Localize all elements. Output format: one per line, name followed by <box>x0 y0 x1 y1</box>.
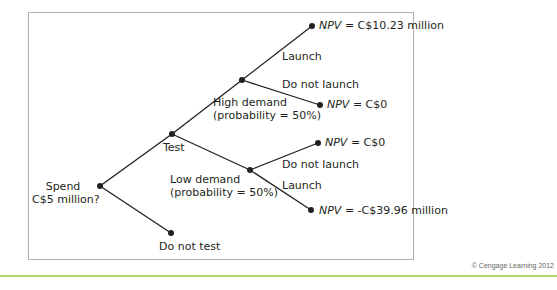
root-label-line2: C$5 million? <box>32 193 94 206</box>
copyright-credit: © Cengage Learning 2012 <box>472 262 554 269</box>
npv-label: NPV <box>327 98 349 111</box>
branch-label-do-not-test: Do not test <box>159 240 220 253</box>
npv-label: NPV <box>319 19 341 32</box>
root-label-line1: Spend <box>32 180 94 193</box>
outcome-high-launch: NPV = C$10.23 million <box>319 19 444 32</box>
node-do-not-test <box>168 230 174 236</box>
npv-value: = C$10.23 million <box>341 19 444 32</box>
node-root <box>97 183 103 189</box>
node-high-demand <box>239 77 245 83</box>
npv-label: NPV <box>319 204 341 217</box>
edge-test <box>100 134 172 186</box>
high-demand-line1: High demand <box>213 96 321 109</box>
decision-tree-edges <box>0 0 557 290</box>
footer-rule <box>0 275 557 277</box>
outcome-low-do-not-launch: NPV = C$0 <box>325 136 385 149</box>
node-low-do-not-launch-outcome <box>315 140 321 146</box>
low-demand-line2: (probability = 50%) <box>170 186 278 199</box>
branch-label-high-demand: High demand (probability = 50%) <box>213 96 321 122</box>
node-low-launch-outcome <box>308 207 314 213</box>
outcome-high-do-not-launch: NPV = C$0 <box>327 98 387 111</box>
outcome-low-launch: NPV = -C$39.96 million <box>319 204 448 217</box>
branch-label-high-do-not-launch: Do not launch <box>282 78 359 91</box>
high-demand-line2: (probability = 50%) <box>213 109 321 122</box>
node-test <box>169 131 175 137</box>
branch-label-low-demand: Low demand (probability = 50%) <box>170 173 278 199</box>
branch-label-low-do-not-launch: Do not launch <box>282 158 359 171</box>
node-high-launch-outcome <box>309 23 315 29</box>
npv-value: = C$0 <box>347 136 385 149</box>
branch-label-test: Test <box>163 141 185 154</box>
npv-value: = -C$39.96 million <box>341 204 448 217</box>
root-label: Spend C$5 million? <box>32 180 94 206</box>
branch-label-low-launch: Launch <box>282 179 322 192</box>
branch-label-high-launch: Launch <box>282 50 322 63</box>
edge-do-not-test <box>100 186 171 233</box>
npv-label: NPV <box>325 136 347 149</box>
low-demand-line1: Low demand <box>170 173 278 186</box>
npv-value: = C$0 <box>349 98 387 111</box>
